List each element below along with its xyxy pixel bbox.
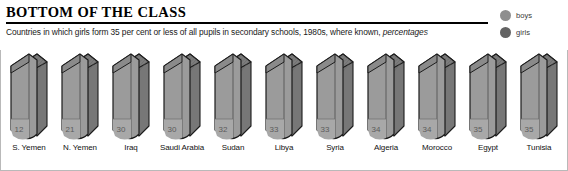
book-icon: 33 — [262, 50, 306, 142]
book-bar: 35Egypt — [463, 50, 513, 152]
book-icon: 21 — [58, 50, 102, 142]
book-bar: 30Saudi Arabia — [157, 50, 207, 152]
book-value-text: 34 — [423, 125, 432, 134]
book-country-label: Tunisia — [527, 143, 552, 152]
book-value-text: 33 — [321, 125, 330, 134]
book-bar: 35Tunisia — [514, 50, 564, 152]
book-country-label: N. Yemen — [63, 143, 97, 152]
subtitle-italic-text: percentages — [383, 27, 428, 37]
book-value-text: 30 — [117, 125, 126, 134]
book-value-text: 33 — [270, 125, 279, 134]
book-value-text: 32 — [219, 125, 228, 134]
book-icon: 34 — [415, 50, 459, 142]
circle-icon — [500, 27, 511, 38]
book-icon: 30 — [160, 50, 204, 142]
legend-label-boys: boys — [516, 11, 532, 20]
title-block: BOTTOM OF THE CLASS Countries in which g… — [6, 4, 488, 37]
book-value-text: 34 — [372, 125, 381, 134]
book-country-label: Algeria — [374, 143, 398, 152]
book-bar: 30Iraq — [106, 50, 156, 152]
circle-icon — [500, 10, 511, 21]
book-country-label: Libya — [275, 143, 294, 152]
legend: boys girls — [500, 7, 562, 41]
book-icon: 32 — [211, 50, 255, 142]
frame-left-border — [0, 50, 1, 171]
book-icon: 30 — [109, 50, 153, 142]
book-bar: 34Algeria — [361, 50, 411, 152]
book-value-text: 12 — [15, 125, 24, 134]
book-bar: 33Syria — [310, 50, 360, 152]
legend-item-girls: girls — [500, 24, 562, 41]
frame-bottom-border — [0, 170, 568, 171]
book-country-label: Morocco — [422, 143, 452, 152]
book-bar: 21N. Yemen — [55, 50, 105, 152]
book-country-label: Syria — [326, 143, 344, 152]
book-value-text: 21 — [66, 125, 75, 134]
book-value-text: 35 — [474, 125, 483, 134]
book-bar: 34Morocco — [412, 50, 462, 152]
chart-subtitle: Countries in which girls form 35 per cen… — [6, 27, 488, 37]
book-bar: 33Libya — [259, 50, 309, 152]
legend-label-girls: girls — [516, 28, 530, 37]
book-icon: 35 — [517, 50, 561, 142]
books-chart-area: 12S. Yemen21N. Yemen30Iraq30Saudi Arabia… — [0, 50, 568, 160]
subtitle-main-text: Countries in which girls form 35 per cen… — [6, 27, 380, 37]
page-title: BOTTOM OF THE CLASS — [6, 4, 488, 22]
book-value-text: 35 — [525, 125, 534, 134]
book-bar: 32Sudan — [208, 50, 258, 152]
book-bar: 12S. Yemen — [4, 50, 54, 152]
book-country-label: Sudan — [222, 143, 245, 152]
book-icon: 34 — [364, 50, 408, 142]
book-icon: 35 — [466, 50, 510, 142]
book-country-label: Saudi Arabia — [160, 143, 204, 152]
title-divider — [6, 22, 488, 24]
infographic-root: BOTTOM OF THE CLASS Countries in which g… — [0, 0, 568, 171]
book-country-label: Egypt — [478, 143, 498, 152]
books-row: 12S. Yemen21N. Yemen30Iraq30Saudi Arabia… — [4, 50, 564, 160]
legend-item-boys: boys — [500, 7, 562, 24]
book-icon: 12 — [7, 50, 51, 142]
book-country-label: Iraq — [124, 143, 137, 152]
book-country-label: S. Yemen — [12, 143, 45, 152]
book-value-text: 30 — [168, 125, 177, 134]
book-icon: 33 — [313, 50, 357, 142]
